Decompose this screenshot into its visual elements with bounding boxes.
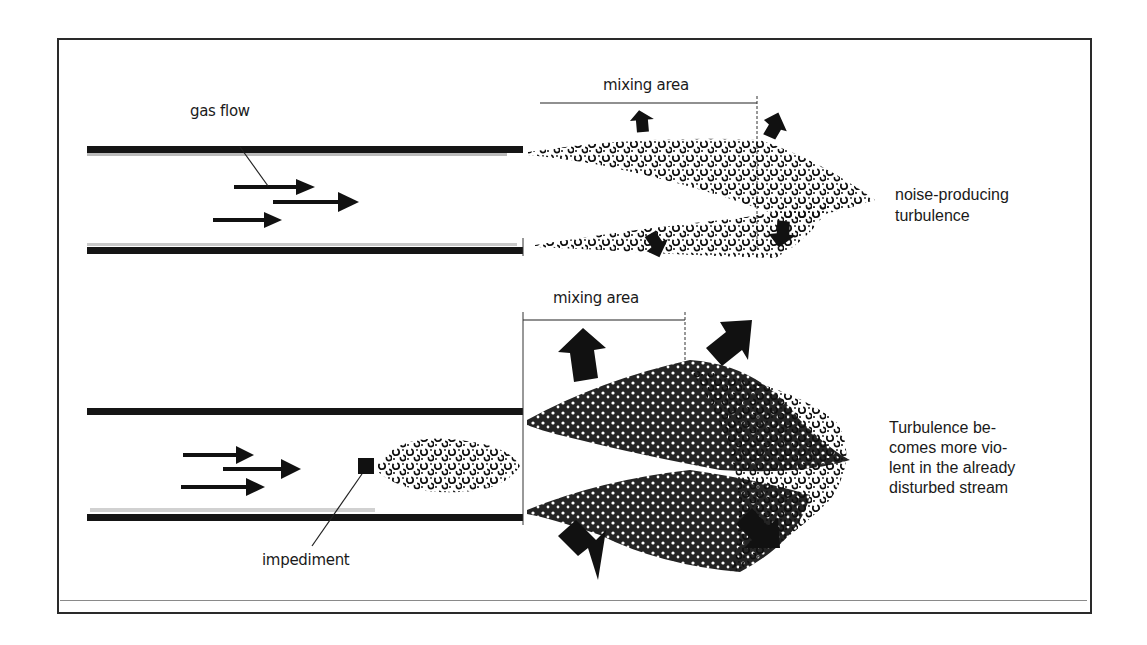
disturbed-stream-cloud	[378, 438, 520, 492]
top-result-label-line2: turbulence	[895, 207, 970, 224]
gas-flow-label: gas flow	[190, 102, 250, 120]
bottom-result-line3: lent in the already	[889, 458, 1015, 478]
bottom-pipe-upper-wall	[87, 408, 523, 415]
bottom-flow-arrows-icon	[181, 446, 301, 496]
bottom-mixing-area-label: mixing area	[553, 289, 639, 307]
top-panel: gas flow mixing area noise-producing tur…	[87, 76, 1009, 261]
bottom-panel: mixing area impediment	[87, 289, 850, 580]
bottom-pipe-lower-wall	[87, 514, 523, 521]
turbulence-diagram: gas flow mixing area noise-producing tur…	[0, 0, 1147, 645]
top-pipe-lower-wall	[87, 247, 523, 254]
top-result-label-line1: noise-producing	[895, 186, 1009, 203]
impediment-block-icon	[358, 458, 374, 474]
bottom-result-line4: disturbed stream	[889, 478, 1015, 498]
top-mixing-area-label: mixing area	[603, 76, 689, 94]
top-flow-arrows-icon	[213, 179, 359, 228]
bottom-result-line1: Turbulence be-	[889, 418, 1015, 438]
bottom-result-line2: comes more vio-	[889, 438, 1015, 458]
bottom-result-label: Turbulence be- comes more vio- lent in t…	[889, 418, 1015, 498]
impediment-label: impediment	[262, 551, 350, 569]
top-pipe-upper-wall	[87, 146, 523, 153]
